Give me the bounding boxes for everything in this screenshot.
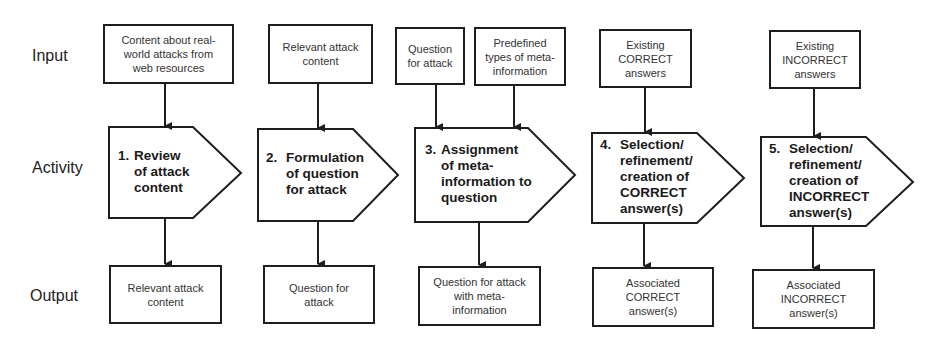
- output-box-1: Relevant attack content: [109, 265, 222, 324]
- activity-number-2: 2.: [266, 150, 277, 166]
- activity-text-2: Formulation of question for attack: [266, 150, 391, 198]
- activity-text-5: Selection/ refinement/ creation of INCOR…: [769, 141, 899, 221]
- activity-text-4: Selection/ refinement/ creation of CORRE…: [600, 137, 730, 217]
- input-text-3a: Question for attack: [407, 42, 452, 70]
- activity-label-3: 3. Assignment of meta- information to qu…: [425, 142, 565, 206]
- activity-label-5: 5. Selection/ refinement/ creation of IN…: [769, 141, 899, 221]
- row-label-input: Input: [32, 47, 68, 65]
- activity-text-3: Assignment of meta- information to quest…: [425, 142, 565, 206]
- output-text-3: Question for attack with meta- informati…: [433, 275, 525, 317]
- input-box-1: Content about real- world attacks from w…: [103, 24, 234, 84]
- activity-label-2: 2. Formulation of question for attack: [266, 150, 391, 198]
- input-text-5: Existing INCORRECT answers: [782, 39, 847, 81]
- activity-number-1: 1.: [118, 148, 129, 164]
- activity-label-1: 1. Review of attack content: [118, 148, 228, 196]
- input-box-4: Existing CORRECT answers: [599, 29, 692, 88]
- input-box-3b: Predefined types of meta- information: [474, 27, 566, 86]
- row-label-output: Output: [30, 287, 78, 305]
- input-box-2: Relevant attack content: [268, 24, 373, 84]
- output-box-5: Associated INCORRECT answer(s): [752, 269, 875, 329]
- input-box-3a: Question for attack: [395, 27, 465, 85]
- input-box-5: Existing INCORRECT answers: [769, 30, 861, 89]
- activity-number-3: 3.: [425, 142, 436, 158]
- process-flow-diagram: Input Activity Output Content about real…: [0, 0, 942, 352]
- activity-number-4: 4.: [600, 137, 611, 153]
- output-text-1: Relevant attack content: [128, 281, 204, 309]
- output-text-4: Associated CORRECT answer(s): [626, 276, 680, 318]
- input-text-4: Existing CORRECT answers: [618, 38, 672, 80]
- output-text-5: Associated INCORRECT answer(s): [781, 278, 846, 320]
- row-label-activity: Activity: [32, 159, 83, 177]
- activity-number-5: 5.: [769, 141, 780, 157]
- activity-text-1: Review of attack content: [118, 148, 228, 196]
- input-text-3b: Predefined types of meta- information: [485, 36, 555, 78]
- activity-label-4: 4. Selection/ refinement/ creation of CO…: [600, 137, 730, 217]
- output-box-2: Question for attack: [263, 265, 375, 324]
- output-text-2: Question for attack: [289, 281, 349, 309]
- input-text-1: Content about real- world attacks from w…: [121, 33, 215, 75]
- input-text-2: Relevant attack content: [283, 40, 359, 68]
- output-box-4: Associated CORRECT answer(s): [592, 267, 714, 327]
- output-box-3: Question for attack with meta- informati…: [418, 266, 541, 326]
